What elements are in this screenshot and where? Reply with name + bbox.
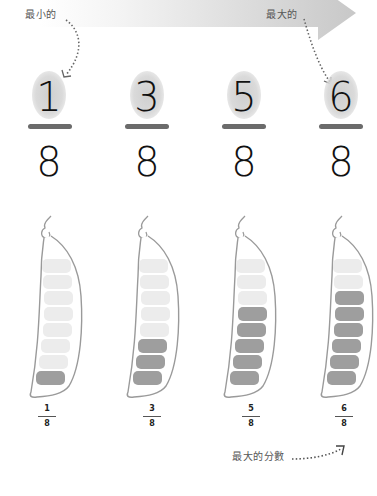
dotted-pointer-largest-fraction-icon bbox=[0, 0, 377, 470]
